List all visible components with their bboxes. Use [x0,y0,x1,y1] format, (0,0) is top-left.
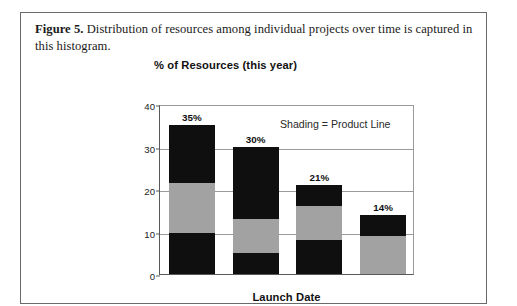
chart: % of Resources (this year) Shading = Pro… [21,59,486,303]
chart-bar[interactable]: 14%Year 4 [360,215,406,275]
figure-box: Figure 5. Distribution of resources amon… [20,12,487,304]
chart-y-tick-mark [156,191,160,192]
chart-bar-segment [296,240,342,274]
chart-bar-segment [169,125,215,182]
chart-bar-value-label: 14% [373,202,393,213]
chart-bar-segment [233,219,279,253]
chart-bar-value-label: 21% [310,172,330,183]
chart-y-axis-title: % of Resources (this year) [154,59,297,71]
chart-bar[interactable]: 35%Year 1 [169,125,215,274]
chart-y-tick-mark [156,276,160,277]
chart-y-tick-label: 30 [144,143,155,154]
chart-bar[interactable]: 21%Year 3 [296,185,342,274]
chart-plot-area: Shading = Product Line 01020304035%Year … [159,105,414,275]
chart-y-tick-label: 10 [144,228,155,239]
chart-y-tick-label: 20 [144,186,155,197]
figure-caption-text: Distribution of resources among individu… [35,22,472,53]
chart-y-tick-mark [156,106,160,107]
chart-bar-segment [296,185,342,206]
chart-bar-segment [169,183,215,233]
chart-bar-value-label: 35% [182,112,202,123]
chart-x-axis-title: Launch Date [159,291,414,303]
chart-bar-segment [233,253,279,274]
chart-bar-segment [169,233,215,274]
chart-y-tick-label: 0 [150,271,155,282]
chart-bar-segment [360,215,406,236]
chart-y-tick-mark [156,233,160,234]
chart-bar-segment [233,147,279,219]
chart-bar-segment [296,206,342,240]
figure-caption-label: Figure 5. [35,22,84,36]
chart-legend-note: Shading = Product Line [280,118,390,130]
chart-y-tick-mark [156,148,160,149]
chart-bar[interactable]: 30%Year 2 [233,147,279,275]
chart-bar-value-label: 30% [246,134,266,145]
figure-caption: Figure 5. Distribution of resources amon… [35,21,473,56]
chart-y-tick-label: 40 [144,101,155,112]
chart-bar-segment [360,236,406,274]
